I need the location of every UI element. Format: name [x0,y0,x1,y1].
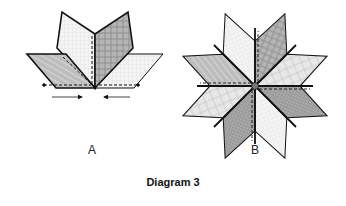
panel-label-b: B [251,143,259,157]
panel-label-a: A [88,143,96,157]
diagram-title: Diagram 3 [0,176,346,188]
diagram-a [27,12,163,97]
center-point [252,83,259,90]
diagram-b [176,7,333,164]
